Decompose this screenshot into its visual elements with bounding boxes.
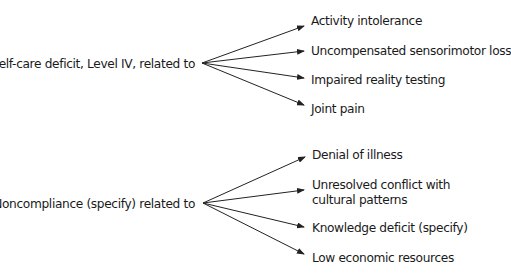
target-activity-intolerance: Activity intolerance <box>311 14 422 28</box>
target-denial-of-illness: Denial of illness <box>312 148 402 162</box>
arrow-2-4 <box>203 203 304 254</box>
group-2-arrows <box>203 157 305 254</box>
arrow-2-3 <box>203 203 304 227</box>
target-unresolved-conflict-line2: cultural patterns <box>312 193 407 207</box>
target-reality-testing: Impaired reality testing <box>311 73 445 87</box>
source-label-self-care: Self-care deficit, Level IV, related to <box>0 57 195 71</box>
arrow-1-4 <box>202 63 304 105</box>
arrow-1-3 <box>202 63 304 78</box>
target-knowledge-deficit: Knowledge deficit (specify) <box>312 221 468 235</box>
source-label-noncompliance: Noncompliance (specify) related to <box>0 197 195 211</box>
group-1-arrows <box>202 26 304 105</box>
target-joint-pain: Joint pain <box>311 102 365 116</box>
target-sensorimotor-loss: Uncompensated sensorimotor loss <box>311 44 511 58</box>
target-low-economic-resources: Low economic resources <box>312 251 454 265</box>
target-unresolved-conflict: Unresolved conflict with <box>312 178 450 192</box>
